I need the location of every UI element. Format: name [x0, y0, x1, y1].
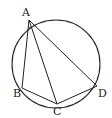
point-label-a: A: [21, 6, 31, 19]
segment-cd: [57, 86, 97, 104]
segment-ab: [22, 20, 29, 88]
segment-ad: [29, 20, 97, 86]
angle-mark-bac: [28, 27, 31, 28]
circumcircle: [12, 20, 100, 108]
point-label-b: B: [13, 87, 21, 100]
point-label-d: D: [98, 87, 107, 100]
point-label-c: C: [53, 105, 61, 118]
geometry-diagram: A B C D: [0, 0, 112, 118]
segment-ac: [29, 20, 57, 104]
segment-bc: [22, 88, 57, 104]
